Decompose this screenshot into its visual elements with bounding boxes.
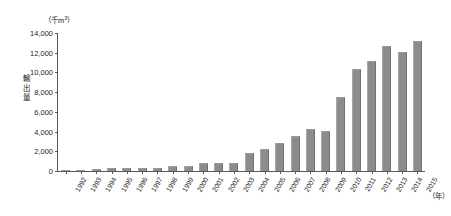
x-axis-tick-label: 2005	[272, 176, 286, 193]
x-axis-tick	[417, 171, 418, 174]
bar	[382, 46, 391, 171]
x-axis-tick	[157, 171, 158, 174]
y-axis-tick	[55, 171, 58, 172]
y-axis-tick-label: 2,000	[34, 147, 53, 156]
x-axis-tick-label: 1996	[135, 176, 149, 193]
bar-chart: （千m3） 輸 出 量 02,0004,0006,0008,00010,0001…	[0, 0, 451, 216]
bar-slot: 1993	[73, 33, 88, 171]
x-axis-tick-label: 2012	[379, 176, 393, 193]
x-axis-tick	[356, 171, 357, 174]
bar-slot: 2012	[364, 33, 379, 171]
bar	[321, 131, 330, 171]
x-axis-tick	[127, 171, 128, 174]
x-axis-tick-label: 2006	[288, 176, 302, 193]
bar-slot: 2011	[349, 33, 364, 171]
y-axis-unit-tail: ）	[67, 16, 74, 25]
x-axis-tick	[341, 171, 342, 174]
x-axis-tick	[203, 171, 204, 174]
bar-slot: 2015	[410, 33, 425, 171]
y-axis-tick-label: 8,000	[34, 88, 53, 97]
y-axis-tick-label: 6,000	[34, 107, 53, 116]
bar-slot: 2005	[257, 33, 272, 171]
bar	[199, 163, 208, 171]
x-axis-tick	[219, 171, 220, 174]
x-axis-tick-label: 2009	[333, 176, 347, 193]
bar	[260, 149, 269, 171]
x-axis-tick-label: 1992	[73, 176, 87, 193]
x-axis-tick-label: 2000	[196, 176, 210, 193]
x-axis-tick-label: 1994	[104, 176, 118, 193]
x-axis-tick	[249, 171, 250, 174]
x-axis-tick-label: 2003	[242, 176, 256, 193]
bar	[214, 163, 223, 171]
bar	[306, 129, 315, 171]
bar	[336, 97, 345, 171]
x-axis-tick	[326, 171, 327, 174]
x-axis-tick-label: 2007	[303, 176, 317, 193]
y-axis-tick-label: 14,000	[30, 29, 53, 38]
x-axis-tick-label: 1995	[119, 176, 133, 193]
y-axis-unit-label: （千m3）	[44, 14, 74, 25]
x-axis-tick-label: 1993	[89, 176, 103, 193]
x-axis-tick	[234, 171, 235, 174]
bar-slot: 2010	[333, 33, 348, 171]
y-axis-tick-label: 0	[49, 167, 53, 176]
x-axis-tick-label: 2004	[257, 176, 271, 193]
bar	[245, 153, 254, 171]
bar	[275, 143, 284, 171]
x-axis-tick-label: 2002	[226, 176, 240, 193]
bar-slot: 2014	[395, 33, 410, 171]
bar-slot: 1992	[58, 33, 73, 171]
x-axis-tick	[310, 171, 311, 174]
bar-slot: 1994	[89, 33, 104, 171]
bar-slot: 1997	[134, 33, 149, 171]
x-axis-tick	[188, 171, 189, 174]
bar	[367, 61, 376, 171]
bar-slot: 2008	[303, 33, 318, 171]
x-axis-tick	[280, 171, 281, 174]
x-axis-unit-label: （年）	[428, 190, 449, 201]
x-axis-tick	[66, 171, 67, 174]
bar-slot: 2007	[287, 33, 302, 171]
bar-slot: 1998	[150, 33, 165, 171]
x-axis-tick	[96, 171, 97, 174]
bar-series: 1992199319941995199619971998199920002001…	[58, 33, 425, 171]
bar-slot: 2006	[272, 33, 287, 171]
bar	[229, 163, 238, 171]
y-axis-tick-label: 4,000	[34, 127, 53, 136]
y-axis-tick-label: 12,000	[30, 48, 53, 57]
bar-slot: 2002	[211, 33, 226, 171]
x-axis-tick	[142, 171, 143, 174]
x-axis-tick	[295, 171, 296, 174]
bar-slot: 2003	[226, 33, 241, 171]
x-axis-tick	[387, 171, 388, 174]
x-axis-tick-label: 1999	[181, 176, 195, 193]
x-axis-tick	[173, 171, 174, 174]
x-axis-tick-label: 2014	[410, 176, 424, 193]
x-axis-tick	[112, 171, 113, 174]
bar-slot: 2009	[318, 33, 333, 171]
x-axis-tick-label: 2010	[349, 176, 363, 193]
bar-slot: 1996	[119, 33, 134, 171]
bar	[398, 52, 407, 171]
x-axis-tick	[402, 171, 403, 174]
bar-slot: 2004	[242, 33, 257, 171]
x-axis-tick-label: 2008	[318, 176, 332, 193]
plot-area: 02,0004,0006,0008,00010,00012,00014,000 …	[57, 33, 425, 172]
bar	[291, 136, 300, 171]
x-axis-tick-label: 2001	[211, 176, 225, 193]
y-axis-tick-label: 10,000	[30, 68, 53, 77]
bar	[352, 69, 361, 171]
y-axis-title-char-2: 出	[21, 84, 31, 94]
y-axis-title-char-3: 量	[21, 93, 31, 103]
bar-slot: 2000	[180, 33, 195, 171]
x-axis-tick	[265, 171, 266, 174]
bar	[413, 41, 422, 171]
y-axis-unit-base: （千m	[44, 16, 64, 25]
x-axis-tick	[372, 171, 373, 174]
x-axis-tick	[81, 171, 82, 174]
bar-slot: 1995	[104, 33, 119, 171]
x-axis-tick-label: 1997	[150, 176, 164, 193]
y-axis-title: 輸 出 量	[21, 74, 31, 103]
bar-slot: 2001	[196, 33, 211, 171]
